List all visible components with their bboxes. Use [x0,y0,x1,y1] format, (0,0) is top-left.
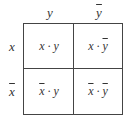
cell-term: y [54,84,59,98]
grid-divider-horizontal [24,68,122,69]
karnaugh-grid: x · y x · y x · y x · y [23,23,123,115]
cell-x-y: x · y [24,39,74,54]
row-header-x-bar: x [6,85,18,98]
cell-term: x [88,39,93,53]
row-label: x [9,84,15,99]
cell-op: · [48,39,51,53]
cell-op: · [97,39,100,53]
cell-term: x [39,84,44,98]
column-label: y [96,5,102,20]
column-header-y-bar: y [93,6,105,19]
cell-xbar-y: x · y [24,84,74,99]
cell-x-ybar: x · y [73,39,123,54]
cell-term: y [103,84,108,98]
cell-xbar-ybar: x · y [73,84,123,99]
cell-term: x [88,84,93,98]
cell-term: y [54,39,59,53]
column-header-y: y [44,6,56,19]
cell-op: · [48,84,51,98]
row-header-x: x [6,40,18,53]
grid-divider-vertical [73,24,74,114]
column-label: y [47,5,53,20]
cell-op: · [97,84,100,98]
row-label: x [9,39,15,54]
cell-term: x [39,39,44,53]
cell-term: y [103,39,108,53]
